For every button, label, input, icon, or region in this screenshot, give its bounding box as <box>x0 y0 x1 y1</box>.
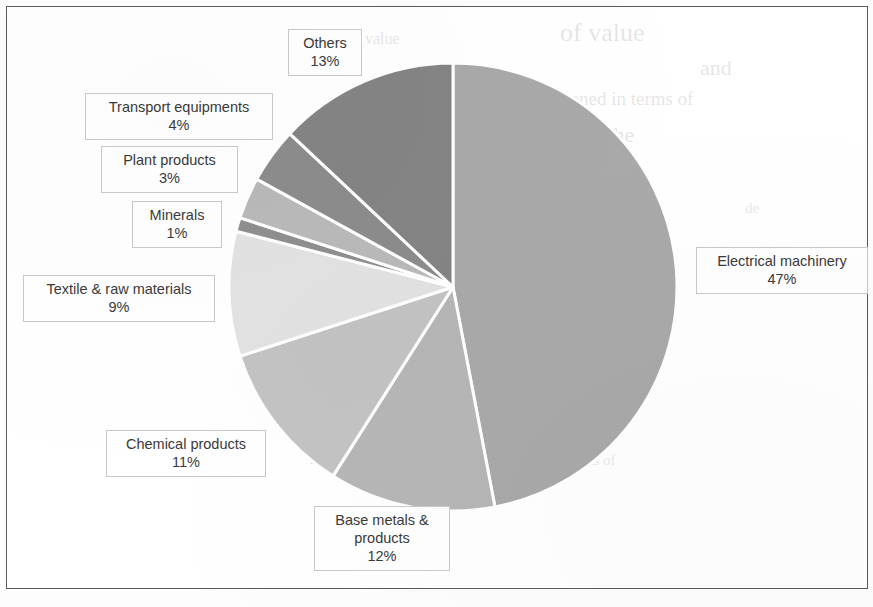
pie-label-name: Transport equipments <box>109 99 250 115</box>
scanned-page: of valuegh valueandhoned in terms ofThet… <box>0 0 873 607</box>
pie-label-transport[interactable]: Transport equipments4% <box>85 93 273 140</box>
pie-label-name: Others <box>303 35 347 51</box>
pie-label-name: Minerals <box>150 207 205 223</box>
pie-label-minerals[interactable]: Minerals1% <box>132 201 222 248</box>
pie-label-plant[interactable]: Plant products3% <box>101 146 238 193</box>
pie-label-name-line2: products <box>354 530 410 546</box>
pie-label-name: Base metals & <box>335 512 429 528</box>
pie-label-name: Plant products <box>123 152 216 168</box>
pie-label-percent: 9% <box>32 298 206 316</box>
pie-label-basemetals[interactable]: Base metals &products12% <box>314 506 450 571</box>
pie-label-percent: 11% <box>115 453 257 471</box>
pie-label-percent: 13% <box>297 52 353 70</box>
pie-label-percent: 4% <box>94 116 264 134</box>
pie-label-percent: 1% <box>141 224 213 242</box>
pie-label-others[interactable]: Others13% <box>288 29 362 76</box>
pie-label-textile[interactable]: Textile & raw materials9% <box>23 275 215 322</box>
pie-label-percent: 47% <box>705 270 859 288</box>
pie-slice[interactable] <box>453 63 677 507</box>
pie-label-electrical[interactable]: Electrical machinery47% <box>696 247 868 294</box>
pie-label-name: Electrical machinery <box>717 253 847 269</box>
pie-label-chemical[interactable]: Chemical products11% <box>106 430 266 477</box>
pie-label-percent: 12% <box>323 547 441 565</box>
pie-label-name: Textile & raw materials <box>46 281 191 297</box>
pie-label-percent: 3% <box>110 169 229 187</box>
pie-label-name: Chemical products <box>126 436 246 452</box>
